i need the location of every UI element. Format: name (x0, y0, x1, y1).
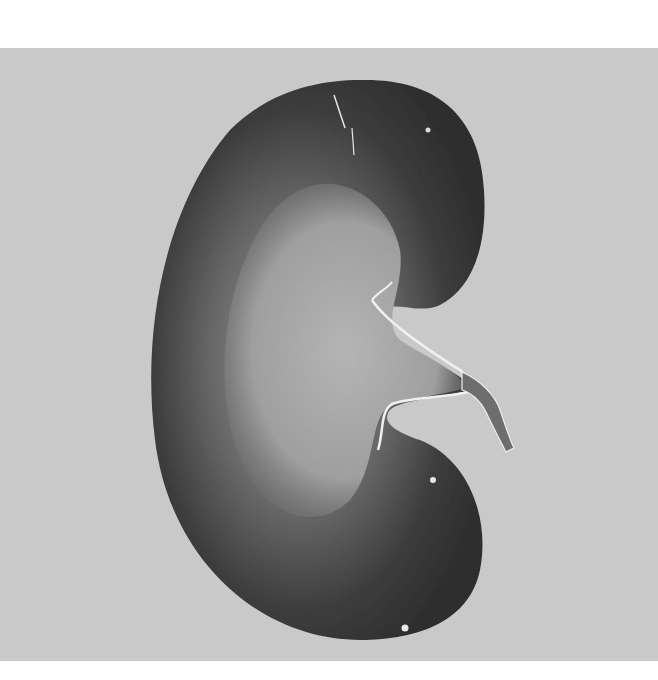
vessel-dot (402, 625, 409, 632)
kidney-illustration (0, 48, 658, 661)
specimen-panel (0, 48, 658, 661)
ureter (462, 372, 514, 452)
vessel-dot (430, 477, 436, 483)
vessel-dot (426, 128, 431, 133)
